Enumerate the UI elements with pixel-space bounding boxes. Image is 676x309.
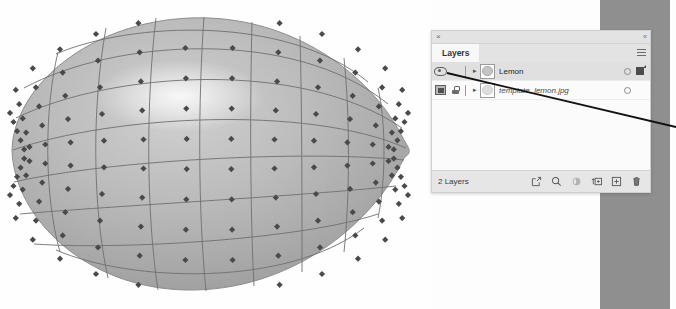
layer-thumbnail[interactable] — [480, 83, 495, 98]
search-layers-icon[interactable] — [551, 176, 562, 187]
tab-layers[interactable]: Layers — [432, 44, 479, 62]
divider — [465, 85, 466, 96]
new-layer-icon[interactable] — [611, 176, 622, 187]
layer-count-label: 2 Layers — [438, 177, 469, 186]
divider — [465, 66, 466, 77]
lock-toggle[interactable] — [449, 86, 462, 94]
eye-icon — [434, 67, 447, 76]
extract-layer-icon[interactable] — [531, 176, 542, 187]
layer-name[interactable]: template_lemon.jpg — [499, 86, 624, 95]
lemon-body — [12, 18, 409, 290]
footer-toolbar[interactable] — [531, 176, 642, 187]
panel-tabbar: Layers — [432, 44, 650, 63]
hamburger-menu-icon[interactable] — [637, 49, 646, 56]
layer-thumbnail[interactable] — [480, 64, 495, 79]
layer-row-lemon[interactable]: ▸ Lemon — [432, 62, 650, 81]
collapse-panel-icon[interactable]: « — [643, 32, 646, 41]
circle-indicator[interactable] — [624, 68, 631, 75]
lemon-mesh-render[interactable] — [0, 0, 430, 309]
circle-indicator[interactable] — [624, 87, 631, 94]
layer-name[interactable]: Lemon — [499, 67, 624, 76]
add-mask-icon[interactable] — [591, 176, 602, 187]
mask-visibility-icon — [435, 85, 446, 95]
screenshot-stage: × « Layers ▸ Lemon ▸ — [0, 0, 676, 309]
layer-list[interactable]: ▸ Lemon ▸ template_lemon.jpg — [432, 62, 650, 170]
close-icon[interactable]: × — [436, 32, 441, 41]
adjustment-icon[interactable] — [571, 176, 582, 187]
chevron-right-icon[interactable]: ▸ — [469, 86, 480, 94]
lock-icon — [452, 86, 459, 94]
style-swatch[interactable] — [636, 67, 644, 75]
layer-row-template[interactable]: ▸ template_lemon.jpg — [432, 81, 650, 100]
visibility-toggle[interactable] — [432, 85, 449, 95]
panel-titlebar: × « — [432, 31, 650, 44]
layers-panel[interactable]: × « Layers ▸ Lemon ▸ — [431, 30, 651, 193]
delete-layer-icon[interactable] — [631, 176, 642, 187]
visibility-toggle[interactable] — [432, 67, 449, 76]
panel-footer: 2 Layers — [432, 170, 650, 192]
model-viewport[interactable] — [0, 0, 430, 309]
chevron-right-icon[interactable]: ▸ — [469, 67, 480, 75]
